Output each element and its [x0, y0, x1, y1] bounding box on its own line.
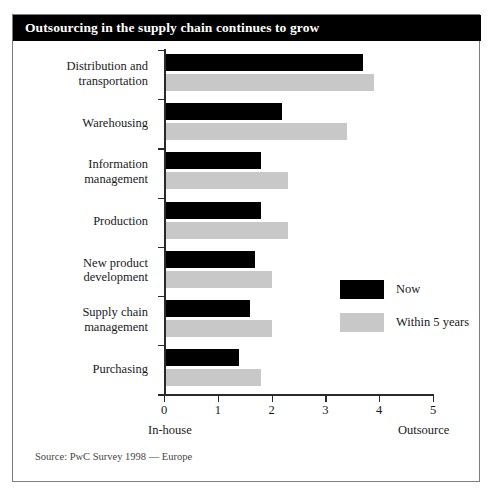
- bar-now: [164, 152, 261, 169]
- category-label: Distribution andtransportation: [13, 49, 156, 98]
- bar-now: [164, 300, 250, 317]
- bar-within-5-years: [164, 369, 261, 386]
- category-label: Informationmanagement: [13, 147, 156, 196]
- bar-within-5-years: [164, 271, 272, 288]
- category-label-line: Distribution and: [66, 59, 148, 74]
- figure-frame: Outsourcing in the supply chain continue…: [12, 14, 480, 482]
- bar-within-5-years: [164, 172, 288, 189]
- bar-now: [164, 349, 239, 366]
- category-label-line: Production: [93, 214, 148, 229]
- bar-row: Distribution andtransportation: [13, 49, 481, 98]
- x-axis-line: [164, 394, 434, 396]
- category-label: Production: [13, 197, 156, 246]
- y-axis-tick: [158, 99, 165, 100]
- y-axis-tick: [158, 394, 165, 395]
- x-axis-tick: [379, 395, 380, 402]
- legend-swatch-within-5-years: [340, 313, 384, 332]
- legend-swatch-now: [340, 280, 384, 299]
- category-label-line: Warehousing: [82, 116, 148, 131]
- x-axis-tick: [272, 395, 273, 402]
- legend-label: Within 5 years: [396, 315, 469, 330]
- bar-group: [164, 98, 481, 147]
- y-axis-tick: [158, 345, 165, 346]
- category-label-line: New product: [83, 256, 148, 271]
- category-label-line: Information: [88, 157, 148, 172]
- y-axis-tick: [158, 198, 165, 199]
- bar-now: [164, 103, 282, 120]
- chart-title-bar: Outsourcing in the supply chain continue…: [13, 15, 481, 41]
- x-axis-tick-label: 5: [421, 403, 445, 418]
- bar-within-5-years: [164, 320, 272, 337]
- bar-now: [164, 251, 255, 268]
- bar-row: Production: [13, 197, 481, 246]
- bar-row: Informationmanagement: [13, 147, 481, 196]
- category-label: Purchasing: [13, 344, 156, 393]
- x-axis-tick-label: 0: [152, 403, 176, 418]
- y-axis-tick: [158, 148, 165, 149]
- x-axis-right-label: Outsource: [398, 423, 449, 438]
- bar-now: [164, 202, 261, 219]
- y-axis-tick: [158, 296, 165, 297]
- x-axis-tick: [218, 395, 219, 402]
- category-label-line: management: [84, 172, 148, 187]
- category-label-line: Supply chain: [82, 305, 148, 320]
- bar-group: [164, 344, 481, 393]
- category-label-line: development: [83, 270, 148, 285]
- x-axis-tick: [325, 395, 326, 402]
- x-axis-tick-label: 2: [260, 403, 284, 418]
- bar-within-5-years: [164, 74, 374, 91]
- bar-group: [164, 147, 481, 196]
- category-label: Supply chainmanagement: [13, 295, 156, 344]
- category-label: Warehousing: [13, 98, 156, 147]
- x-axis-left-label: In-house: [148, 423, 192, 438]
- source-note: Source: PwC Survey 1998 — Europe: [35, 451, 192, 462]
- bar-within-5-years: [164, 123, 347, 140]
- bar-row: Purchasing: [13, 344, 481, 393]
- y-axis-tick: [158, 50, 165, 51]
- y-axis-line: [164, 49, 166, 395]
- category-label-line: transportation: [79, 74, 148, 89]
- y-axis-tick: [158, 247, 165, 248]
- x-axis-tick-label: 1: [206, 403, 230, 418]
- bar-now: [164, 54, 363, 71]
- page-title: Outsourcing in the supply chain continue…: [13, 20, 319, 36]
- legend-item: Within 5 years: [340, 312, 480, 345]
- x-axis-tick: [164, 395, 165, 402]
- bar-group: [164, 197, 481, 246]
- bar-group: [164, 49, 481, 98]
- category-label-line: management: [84, 320, 148, 335]
- x-axis-tick-label: 3: [313, 403, 337, 418]
- bar-within-5-years: [164, 222, 288, 239]
- bar-row: Warehousing: [13, 98, 481, 147]
- category-label: New productdevelopment: [13, 246, 156, 295]
- x-axis-tick: [433, 395, 434, 402]
- plot-area: Distribution andtransportationWarehousin…: [13, 41, 481, 483]
- chart-legend: NowWithin 5 years: [340, 279, 480, 345]
- x-axis-tick-label: 4: [367, 403, 391, 418]
- legend-item: Now: [340, 279, 480, 312]
- category-label-line: Purchasing: [92, 362, 148, 377]
- legend-label: Now: [396, 282, 420, 297]
